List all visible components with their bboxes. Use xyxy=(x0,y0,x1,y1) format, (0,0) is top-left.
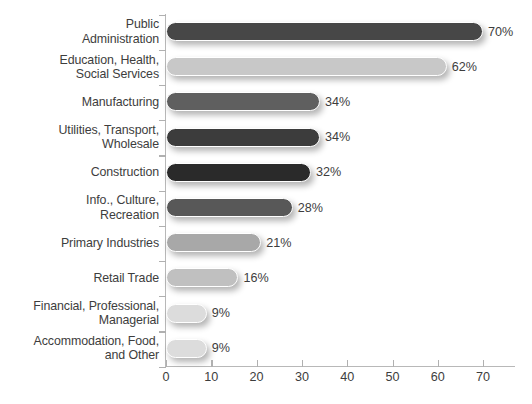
x-axis-tick-label: 10 xyxy=(191,370,231,384)
bar[interactable]: 21% xyxy=(166,233,261,252)
x-axis-tick xyxy=(257,360,258,367)
bar-container: 21% xyxy=(166,225,261,260)
category-label: Financial, Professional, Managerial xyxy=(0,299,159,327)
category-label: Construction xyxy=(0,165,159,179)
bar-container: 16% xyxy=(166,260,238,295)
x-axis-tick-label: 60 xyxy=(418,370,458,384)
bar-row: Financial, Professional, Managerial9% xyxy=(0,296,532,331)
bar-value-label: 21% xyxy=(266,236,291,250)
bar[interactable]: 28% xyxy=(166,198,293,217)
y-axis-tick xyxy=(159,85,166,86)
bar-row: Retail Trade16% xyxy=(0,260,532,295)
bar[interactable]: 62% xyxy=(166,57,447,76)
x-axis-tick-label: 0 xyxy=(146,370,186,384)
bar[interactable]: 9% xyxy=(166,304,207,323)
bar-row: Info., Culture, Recreation28% xyxy=(0,190,532,225)
bar-value-label: 32% xyxy=(316,165,341,179)
bar-container: 32% xyxy=(166,155,311,190)
bar-row: Manufacturing34% xyxy=(0,84,532,119)
x-axis-tick-label: 50 xyxy=(373,370,413,384)
bar-row: Accommodation, Food, and Other9% xyxy=(0,331,532,366)
y-axis-tick xyxy=(159,50,166,51)
bar-value-label: 16% xyxy=(243,271,268,285)
category-label: Manufacturing xyxy=(0,95,159,109)
bar-value-label: 34% xyxy=(325,130,350,144)
y-axis-tick xyxy=(159,367,166,368)
bar-row: Primary Industries21% xyxy=(0,225,532,260)
bar-value-label: 28% xyxy=(298,201,323,215)
bar-value-label: 9% xyxy=(212,341,230,355)
bar[interactable]: 70% xyxy=(166,22,483,41)
bar-chart: Public Administration70%Education, Healt… xyxy=(0,0,532,404)
bar-container: 28% xyxy=(166,190,293,225)
x-axis-tick xyxy=(393,360,394,367)
bar[interactable]: 34% xyxy=(166,92,320,111)
plot-area: Public Administration70%Education, Healt… xyxy=(0,0,532,404)
bar-value-label: 62% xyxy=(452,60,477,74)
bar[interactable]: 16% xyxy=(166,268,238,287)
bar-container: 9% xyxy=(166,331,207,366)
bar-container: 70% xyxy=(166,14,483,49)
y-axis-tick xyxy=(159,191,166,192)
x-axis-tick xyxy=(302,360,303,367)
x-axis-line xyxy=(165,366,515,367)
x-axis-tick xyxy=(438,360,439,367)
x-axis-tick-label: 40 xyxy=(327,370,367,384)
x-axis-tick-label: 70 xyxy=(463,370,503,384)
footer-note xyxy=(2,392,182,402)
x-axis-tick-label: 20 xyxy=(237,370,277,384)
category-label: Public Administration xyxy=(0,17,159,45)
y-axis-tick xyxy=(159,226,166,227)
bar-value-label: 34% xyxy=(325,95,350,109)
category-label: Utilities, Transport, Wholesale xyxy=(0,123,159,151)
bar-container: 34% xyxy=(166,84,320,119)
x-axis-tick xyxy=(211,360,212,367)
bar-row: Utilities, Transport, Wholesale34% xyxy=(0,120,532,155)
bar-row: Public Administration70% xyxy=(0,14,532,49)
x-axis-tick xyxy=(347,360,348,367)
bar[interactable]: 32% xyxy=(166,163,311,182)
y-axis-tick xyxy=(159,120,166,121)
category-label: Accommodation, Food, and Other xyxy=(0,334,159,362)
bar[interactable]: 9% xyxy=(166,339,207,358)
category-label: Primary Industries xyxy=(0,236,159,250)
bar[interactable]: 34% xyxy=(166,128,320,147)
bar-row: Construction32% xyxy=(0,155,532,190)
category-label: Education, Health, Social Services xyxy=(0,53,159,81)
y-axis-tick xyxy=(159,261,166,262)
category-label: Info., Culture, Recreation xyxy=(0,193,159,221)
y-axis-tick xyxy=(159,296,166,297)
bar-container: 34% xyxy=(166,120,320,155)
category-label: Retail Trade xyxy=(0,271,159,285)
y-axis-tick xyxy=(159,15,166,16)
y-axis-tick xyxy=(159,331,166,332)
bar-value-label: 70% xyxy=(488,25,513,39)
y-axis-tick xyxy=(159,155,166,156)
x-axis-tick xyxy=(166,360,167,367)
x-axis-tick xyxy=(483,360,484,367)
x-axis-tick-label: 30 xyxy=(282,370,322,384)
bar-container: 9% xyxy=(166,296,207,331)
bar-row: Education, Health, Social Services62% xyxy=(0,49,532,84)
bar-container: 62% xyxy=(166,49,447,84)
bar-value-label: 9% xyxy=(212,306,230,320)
